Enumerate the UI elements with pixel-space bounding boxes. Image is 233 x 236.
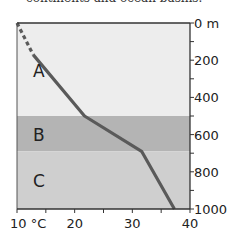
x-tick-label: 30 (124, 216, 141, 231)
x-tick-label: 20 (66, 216, 83, 231)
y-tick-label: 800 (194, 165, 219, 180)
layer-label-b: B (33, 125, 45, 145)
temperature-depth-chart: ABC 10 °C203040 0 m2004006008001000 (0, 0, 233, 236)
layer-label-c: C (33, 171, 45, 191)
x-tick-label: 40 (182, 216, 199, 231)
y-tick-label: 1000 (194, 202, 227, 217)
y-tick-label: 600 (194, 128, 219, 143)
x-tick-label: 10 °C (10, 216, 46, 231)
layer-label-a: A (33, 61, 45, 81)
y-tick-label: 200 (194, 53, 219, 68)
y-tick-label: 0 m (194, 16, 219, 31)
y-tick-label: 400 (194, 90, 219, 105)
